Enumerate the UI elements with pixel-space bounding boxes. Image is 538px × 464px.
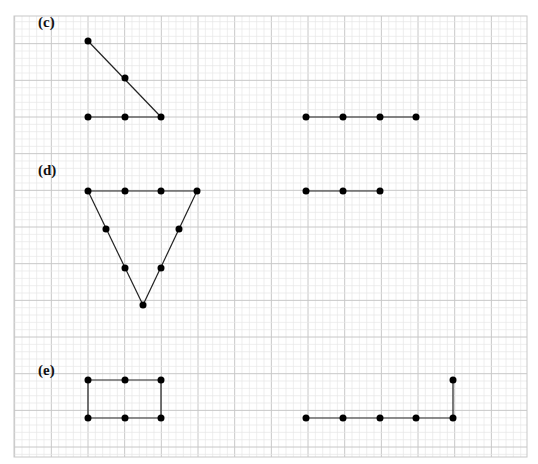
grid-diagram-canvas: (c) (d) (e) [0, 0, 538, 464]
point-dot [340, 188, 347, 195]
point-dot [122, 415, 129, 422]
part-d-group: (d) [38, 162, 384, 309]
point-dot [450, 377, 457, 384]
part-e-label: (e) [38, 362, 55, 379]
part-d-label: (d) [38, 162, 56, 179]
point-dot [122, 377, 129, 384]
point-dot [303, 114, 310, 121]
point-dot [176, 226, 183, 233]
line-segment [88, 191, 143, 305]
graph-paper-grid [14, 16, 527, 457]
point-dot [303, 188, 310, 195]
point-dot [340, 114, 347, 121]
point-dot [194, 188, 201, 195]
point-dot [140, 302, 147, 309]
point-dot [122, 265, 129, 272]
part-c-right-figure [303, 114, 420, 121]
point-dot [122, 188, 129, 195]
line-segment [143, 191, 197, 305]
point-dot [450, 415, 457, 422]
point-dot [85, 188, 92, 195]
part-d-right-figure [303, 188, 384, 195]
point-dot [103, 226, 110, 233]
point-dot [85, 415, 92, 422]
point-dot [85, 38, 92, 45]
point-dot [413, 415, 420, 422]
part-e-group: (e) [38, 362, 457, 422]
point-dot [377, 415, 384, 422]
grid-border [14, 16, 527, 457]
part-c-label: (c) [38, 14, 55, 31]
point-dot [122, 114, 129, 121]
point-dot [122, 75, 129, 82]
point-dot [413, 114, 420, 121]
point-dot [340, 415, 347, 422]
point-dot [158, 377, 165, 384]
point-dot [85, 377, 92, 384]
point-dot [377, 188, 384, 195]
point-dot [158, 188, 165, 195]
part-e-right-figure [303, 377, 457, 422]
point-dot [158, 114, 165, 121]
point-dot [85, 114, 92, 121]
point-dot [158, 415, 165, 422]
point-dot [377, 114, 384, 121]
point-dot [303, 415, 310, 422]
point-dot [158, 265, 165, 272]
